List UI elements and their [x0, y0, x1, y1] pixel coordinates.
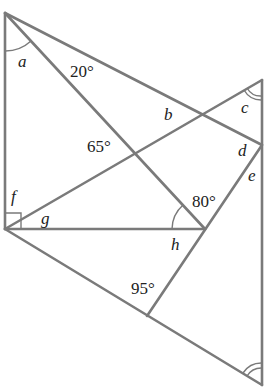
label-65-degrees: 65°: [87, 138, 111, 155]
label-g: g: [41, 210, 50, 227]
diagram-lines: [0, 0, 275, 391]
geometry-diagram: a 20° b c 65° d e 80° f g h 95°: [0, 0, 275, 391]
angle-a-arc: [5, 41, 31, 51]
line-a-to-h: [5, 13, 205, 229]
angle-80-arc: [172, 205, 183, 229]
angle-bottom-arc-inner: [247, 368, 262, 376]
angle-c-arc-inner: [247, 88, 262, 96]
label-20-degrees: 20°: [70, 63, 94, 80]
label-f: f: [11, 188, 16, 205]
label-95-degrees: 95°: [131, 280, 155, 297]
label-h: h: [171, 236, 180, 253]
line-p-to-c: [5, 80, 262, 229]
label-b: b: [164, 106, 173, 123]
line-a-to-d: [5, 13, 262, 145]
label-e: e: [248, 167, 256, 184]
label-a: a: [18, 53, 27, 70]
line-d-to-q: [147, 145, 262, 316]
label-c: c: [241, 99, 249, 116]
line-p-to-r: [5, 229, 262, 385]
label-80-degrees: 80°: [192, 193, 216, 210]
label-d: d: [238, 142, 247, 159]
